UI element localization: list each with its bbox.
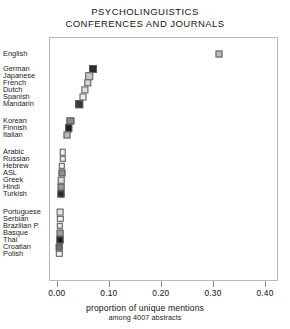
x-tick-0	[57, 281, 58, 287]
category-label-english: English	[3, 50, 27, 57]
chart-title-line-1: PSYCHOLINGUISTICS	[0, 6, 290, 18]
x-axis-title: proportion of unique mentions among 4007…	[0, 303, 290, 322]
x-tick-3	[213, 281, 214, 287]
x-tick-label-2: 0.20	[152, 288, 169, 298]
x-tick-1	[109, 281, 110, 287]
x-tick-4	[265, 281, 266, 287]
chart-title-line-2: CONFERENCES AND JOURNALS	[0, 18, 290, 30]
x-tick-label-3: 0.30	[204, 288, 221, 298]
x-axis-title-main: proportion of unique mentions	[0, 303, 290, 313]
chart-container: PSYCHOLINGUISTICS CONFERENCES AND JOURNA…	[0, 0, 290, 329]
x-tick-2	[161, 281, 162, 287]
x-axis-title-sub: among 4007 abstracts	[0, 313, 290, 322]
category-label-italian: Italian	[3, 131, 23, 138]
category-axis-labels: EnglishGermanJapaneseFrenchDutchSpanishM…	[0, 37, 46, 281]
x-tick-label-1: 0.10	[100, 288, 117, 298]
category-label-turkish: Turkish	[3, 190, 27, 197]
plot-area	[49, 37, 278, 281]
x-tick-label-4: 0.40	[256, 288, 273, 298]
x-axis-tick-labels: 0.000.100.200.300.40	[0, 288, 290, 300]
x-tick-label-0: 0.00	[48, 288, 65, 298]
category-label-mandarin: Mandarin	[3, 100, 34, 107]
chart-title: PSYCHOLINGUISTICS CONFERENCES AND JOURNA…	[0, 6, 290, 29]
category-label-polish: Polish	[3, 250, 23, 257]
